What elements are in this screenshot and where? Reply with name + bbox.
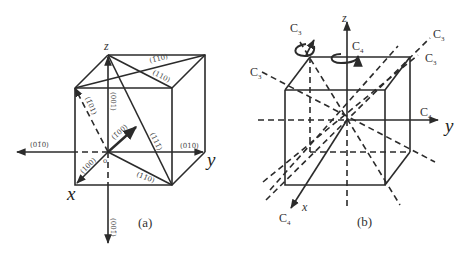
label-00bar1: (001̄) <box>109 218 117 237</box>
label-bar100: (1̄00) <box>110 123 130 142</box>
z-axis-label-b: z <box>341 11 347 25</box>
svg-text:C: C <box>279 211 287 225</box>
label-1bar10: (11̄0) <box>135 170 156 185</box>
svg-text:4: 4 <box>287 219 291 227</box>
svg-text:C: C <box>420 105 428 119</box>
svg-text:C: C <box>433 27 441 41</box>
svg-text:C: C <box>425 51 433 65</box>
z-axis-label-a: z <box>103 39 109 53</box>
label-c4-top: C 4 <box>352 39 364 55</box>
svg-text:3: 3 <box>298 29 302 37</box>
label-bar101: (1̄01) <box>83 96 98 117</box>
svg-text:3: 3 <box>441 35 445 43</box>
label-c4-right: C 4 <box>420 105 432 121</box>
label-c3-left: C 3 <box>250 65 262 81</box>
svg-text:3: 3 <box>433 59 437 67</box>
y-axis-label-a: y <box>205 149 216 170</box>
origin-label-a: o <box>103 157 107 165</box>
svg-text:C: C <box>352 39 360 53</box>
label-c3-top-right-inner: C 3 <box>425 51 437 67</box>
label-0bar10: (01̄0) <box>30 141 49 149</box>
panel-b-caption: (b) <box>357 214 372 229</box>
panel-a-caption: (a) <box>138 215 152 230</box>
panel-b: z y x C 3 C 4 C 3 C 3 C 3 C 4 C 4 <box>250 11 454 229</box>
label-010: (010) <box>180 142 199 150</box>
label-c3-top-right-outer: C 3 <box>433 27 445 43</box>
rotation-arrow-c4 <box>332 54 358 63</box>
crystal-symmetry-figure: z y x o (1̄10) (110) (1̄01) (001) (1̄00)… <box>0 0 470 258</box>
svg-text:C: C <box>290 21 298 35</box>
svg-text:C: C <box>250 65 258 79</box>
figure-canvas: z y x o (1̄10) (110) (1̄01) (001) (1̄00)… <box>0 0 470 258</box>
label-001: (001) <box>109 92 117 111</box>
x-axis-label-b: x <box>301 200 308 214</box>
label-c4-bottom: C 4 <box>279 211 291 227</box>
label-c3-top-left: C 3 <box>290 21 302 37</box>
svg-text:4: 4 <box>360 47 364 55</box>
rotation-arrow-c3 <box>295 40 314 56</box>
svg-text:4: 4 <box>428 113 432 121</box>
x-axis-label-a: x <box>66 183 76 204</box>
svg-text:3: 3 <box>258 73 262 81</box>
y-axis-label-b: y <box>443 115 454 136</box>
panel-a: z y x o (1̄10) (110) (1̄01) (001) (1̄00)… <box>17 39 216 243</box>
